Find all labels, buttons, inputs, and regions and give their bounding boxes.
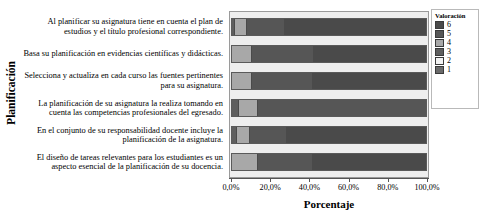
stacked-bar: [231, 72, 427, 90]
bar-segment-4: [234, 19, 246, 35]
bar-segment-6: [313, 46, 426, 62]
legend-item-list: 654321: [435, 21, 475, 74]
legend-title: Valoración: [435, 12, 475, 19]
bar-segment-4: [238, 100, 257, 116]
legend-label: 3: [447, 48, 451, 56]
stacked-bar-chart: Planificación Al planificar su asignatur…: [0, 0, 481, 219]
bars-container: [231, 13, 427, 176]
x-tick: [231, 178, 232, 182]
legend-label: 4: [447, 39, 451, 47]
x-axis-ticks: [231, 178, 427, 182]
category-label: Selecciona y actualiza en cada curso las…: [20, 67, 226, 94]
bar-segment-5: [249, 127, 286, 143]
legend-item[interactable]: 2: [435, 57, 475, 65]
bar-row: [231, 122, 427, 149]
x-tick-label: 0,0%: [211, 183, 251, 192]
category-label: En el conjunto de su responsabilidad doc…: [20, 122, 226, 149]
y-axis-title: Planificación: [2, 18, 20, 168]
bar-segment-6: [312, 73, 426, 89]
stacked-bar: [231, 126, 427, 144]
x-axis-title: Porcentaje: [229, 198, 429, 210]
y-axis-title-text: Planificación: [5, 61, 17, 125]
stacked-bar: [231, 45, 427, 63]
legend-label: 5: [447, 30, 451, 38]
legend-label: 6: [447, 21, 451, 29]
x-tick-label: 80,0%: [368, 183, 408, 192]
stacked-bar: [231, 153, 427, 171]
bar-segment-5: [246, 19, 285, 35]
category-label: Al planificar su asignatura tiene en cue…: [20, 13, 226, 40]
x-tick: [309, 178, 310, 182]
x-tick: [388, 178, 389, 182]
bar-segment-5: [257, 154, 311, 170]
bar-segment-5: [257, 100, 426, 116]
legend-swatch-2: [435, 57, 444, 65]
legend-swatch-5: [435, 30, 444, 38]
bar-row: [231, 149, 427, 176]
bar-segment-4: [232, 73, 251, 89]
stacked-bar: [231, 99, 427, 117]
stacked-bar: [231, 18, 427, 36]
legend-label: 1: [447, 66, 451, 74]
category-label: Basa su planificación en evidencias cien…: [20, 40, 226, 67]
bar-segment-4: [232, 46, 251, 62]
bar-segment-4: [236, 127, 250, 143]
x-tick: [427, 178, 428, 182]
bar-segment-5: [251, 46, 313, 62]
legend-item[interactable]: 5: [435, 30, 475, 38]
bar-row: [231, 13, 427, 40]
x-tick-label: 40,0%: [289, 183, 329, 192]
bar-segment-6: [284, 19, 426, 35]
x-tick: [270, 178, 271, 182]
legend: Valoración 654321: [431, 9, 479, 109]
bar-row: [231, 67, 427, 94]
bar-row: [231, 95, 427, 122]
legend-item[interactable]: 4: [435, 39, 475, 47]
bar-segment-4: [232, 154, 257, 170]
legend-item[interactable]: 6: [435, 21, 475, 29]
legend-item[interactable]: 3: [435, 48, 475, 56]
category-label-list: Al planificar su asignatura tiene en cue…: [20, 13, 226, 176]
x-tick-label: 20,0%: [250, 183, 290, 192]
bar-segment-6: [286, 127, 426, 143]
x-tick: [349, 178, 350, 182]
x-tick-label: 100,0%: [407, 183, 447, 192]
category-label: La planificación de su asignatura la rea…: [20, 95, 226, 122]
legend-swatch-1: [435, 66, 444, 74]
category-label: El diseño de tareas relevantes para los …: [20, 149, 226, 176]
legend-swatch-4: [435, 39, 444, 47]
legend-label: 2: [447, 57, 451, 65]
bar-segment-5: [251, 73, 311, 89]
x-tick-label: 60,0%: [329, 183, 369, 192]
legend-item[interactable]: 1: [435, 66, 475, 74]
bar-row: [231, 40, 427, 67]
legend-swatch-3: [435, 48, 444, 56]
legend-swatch-6: [435, 21, 444, 29]
bar-segment-6: [312, 154, 426, 170]
x-axis-tick-labels: 0,0%20,0%40,0%60,0%80,0%100,0%: [206, 183, 452, 195]
